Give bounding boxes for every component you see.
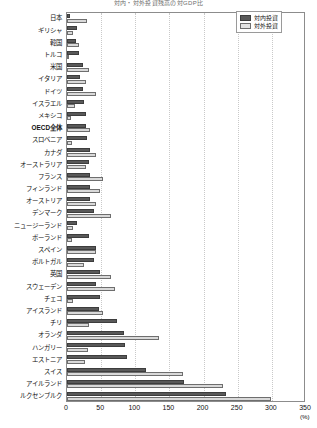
legend-swatch-inward-icon xyxy=(240,15,251,21)
bar-inward xyxy=(67,307,99,311)
y-axis-label-24: アイスランド xyxy=(26,307,62,314)
bar-outward xyxy=(67,141,72,145)
y-axis-label-5: イタリア xyxy=(38,75,62,82)
bar-outward xyxy=(67,68,89,72)
legend-item-inward: 対内投資 xyxy=(240,14,278,22)
bar-outward xyxy=(67,397,271,401)
bar-row xyxy=(67,136,304,148)
y-axis-label-7: イスラエル xyxy=(32,100,62,107)
bar-row xyxy=(67,197,304,209)
bar-outward xyxy=(67,104,75,108)
bar-outward xyxy=(67,116,71,120)
y-axis-label-9: OECD全体 xyxy=(32,124,62,131)
bar-outward xyxy=(67,165,86,169)
y-axis-label-0: 日本 xyxy=(50,14,62,21)
bar-outward xyxy=(67,128,90,132)
y-axis-label-28: エストニア xyxy=(32,356,62,363)
bar-outward xyxy=(67,202,96,206)
y-axis-label-16: デンマーク xyxy=(32,209,62,216)
bar-inward xyxy=(67,258,94,262)
y-axis-label-8: メキシコ xyxy=(38,112,62,119)
bar-outward xyxy=(67,287,115,291)
bar-row xyxy=(67,221,304,233)
bar-inward xyxy=(67,355,127,359)
bar-row xyxy=(67,209,304,221)
plot-area xyxy=(66,12,305,402)
legend-item-outward: 対外投資 xyxy=(240,22,278,30)
bar-inward xyxy=(67,148,90,152)
y-axis-label-11: カナダ xyxy=(44,149,62,156)
y-axis-label-22: スウェーデン xyxy=(26,283,62,290)
bar-outward xyxy=(67,177,103,181)
x-axis-unit: (%) xyxy=(300,413,310,420)
bar-row xyxy=(67,234,304,246)
bar-row xyxy=(67,51,304,63)
bar-outward xyxy=(67,323,89,327)
x-axis-tick-150: 150 xyxy=(163,404,175,411)
legend-label-inward: 対内投資 xyxy=(254,15,278,22)
y-axis-label-4: 米国 xyxy=(50,63,62,70)
x-axis-labels: 050100150200250300350 xyxy=(0,404,317,416)
chart-legend: 対内投資 対外投資 xyxy=(236,11,282,33)
bar-rows xyxy=(67,13,304,401)
bar-inward xyxy=(67,124,86,128)
y-axis-label-30: アイルランド xyxy=(26,380,62,387)
bar-outward xyxy=(67,43,79,47)
bar-inward xyxy=(67,197,90,201)
bar-row xyxy=(67,295,304,307)
bar-inward xyxy=(67,63,83,67)
bar-row xyxy=(67,63,304,75)
y-axis-label-6: ドイツ xyxy=(44,88,62,95)
bar-row xyxy=(67,380,304,392)
y-axis-label-15: オーストリア xyxy=(26,197,62,204)
y-axis-label-14: フィンランド xyxy=(26,185,62,192)
bar-row xyxy=(67,185,304,197)
bar-row xyxy=(67,100,304,112)
bar-inward xyxy=(67,319,117,323)
bar-inward xyxy=(67,100,84,104)
bar-outward xyxy=(67,55,69,59)
bar-outward xyxy=(67,92,96,96)
bar-row xyxy=(67,124,304,136)
bar-row xyxy=(67,355,304,367)
bar-inward xyxy=(67,282,96,286)
bar-outward xyxy=(67,226,73,230)
x-axis-tick-0: 0 xyxy=(64,404,68,411)
bar-outward xyxy=(67,275,111,279)
bar-row xyxy=(67,258,304,270)
x-axis-tick-250: 250 xyxy=(231,404,243,411)
legend-label-outward: 対外投資 xyxy=(254,23,278,30)
bar-inward xyxy=(67,136,87,140)
bar-row xyxy=(67,112,304,124)
y-axis-label-19: スペイン xyxy=(38,246,62,253)
x-axis-tick-50: 50 xyxy=(96,404,104,411)
y-axis-label-29: スイス xyxy=(44,368,62,375)
y-axis-label-31: ルクセンブルク xyxy=(20,392,62,399)
y-axis-label-10: スロベニア xyxy=(32,136,62,143)
bar-inward xyxy=(67,331,124,335)
y-axis-label-21: 英国 xyxy=(50,270,62,277)
bar-outward xyxy=(67,189,100,193)
y-axis-label-18: ポーランド xyxy=(32,234,62,241)
bar-outward xyxy=(67,19,87,23)
bar-inward xyxy=(67,392,226,396)
bar-inward xyxy=(67,368,146,372)
bar-inward xyxy=(67,14,70,18)
bar-inward xyxy=(67,246,96,250)
y-axis-label-1: ギリシャ xyxy=(38,27,62,34)
bar-row xyxy=(67,368,304,380)
y-axis-label-25: チリ xyxy=(50,319,62,326)
bar-inward xyxy=(67,26,77,30)
bar-outward xyxy=(67,372,183,376)
bar-inward xyxy=(67,234,89,238)
bar-inward xyxy=(67,160,89,164)
bar-row xyxy=(67,331,304,343)
chart-title: 対内・対外投資残高の対GDP比 xyxy=(0,0,317,7)
bar-row xyxy=(67,173,304,185)
y-axis-label-17: ニュージーランド xyxy=(14,222,62,229)
bar-outward xyxy=(67,31,73,35)
bar-outward xyxy=(67,153,96,157)
bar-inward xyxy=(67,343,125,347)
bar-row xyxy=(67,270,304,282)
y-axis-label-26: オランダ xyxy=(38,331,62,338)
